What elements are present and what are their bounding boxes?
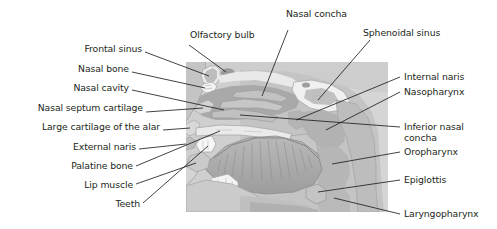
leader-large-cartilage-alar bbox=[163, 128, 190, 130]
label-oropharynx: Oropharynx bbox=[404, 146, 458, 157]
figure-container: Olfactory bulb Nasal concha Sphenoidal s… bbox=[0, 0, 497, 229]
label-lip-muscle: Lip muscle bbox=[0, 179, 133, 190]
label-epiglottis: Epiglottis bbox=[404, 174, 446, 185]
label-olfactory-bulb: Olfactory bulb bbox=[190, 29, 254, 40]
label-palatine-bone: Palatine bone bbox=[0, 160, 133, 171]
label-internal-naris: Internal naris bbox=[404, 71, 464, 82]
label-large-cartilage-of-the-alar: Large cartilage of the alar bbox=[0, 121, 160, 132]
label-teeth: Teeth bbox=[0, 198, 140, 209]
label-laryngopharynx: Laryngopharynx bbox=[404, 208, 479, 219]
label-nasal-bone: Nasal bone bbox=[0, 63, 129, 74]
sella-turcica-marker bbox=[302, 82, 310, 87]
external-naris-opening bbox=[179, 137, 196, 150]
label-inferior-nasal-concha: Inferior nasal concha bbox=[404, 121, 496, 144]
label-sphenoidal-sinus: Sphenoidal sinus bbox=[363, 27, 440, 38]
label-frontal-sinus: Frontal sinus bbox=[0, 43, 142, 54]
label-external-naris: External naris bbox=[0, 141, 136, 152]
label-nasal-cavity: Nasal cavity bbox=[0, 82, 129, 93]
label-nasal-concha: Nasal concha bbox=[286, 8, 347, 19]
label-nasal-septum-cartilage: Nasal septum cartilage bbox=[0, 102, 143, 113]
label-nasopharynx: Nasopharynx bbox=[404, 86, 464, 97]
